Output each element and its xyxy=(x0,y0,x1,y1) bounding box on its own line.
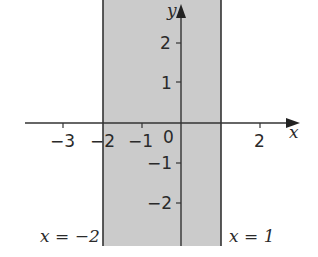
y-tick-label: −2 xyxy=(147,193,172,213)
y-tick-label: 2 xyxy=(160,33,171,53)
y-axis-label: y xyxy=(166,0,177,20)
x-tick-label: −1 xyxy=(128,131,153,151)
x-tick-label: 0 xyxy=(163,127,174,147)
y-tick-label: −1 xyxy=(147,153,172,173)
annotation-x-1: x = 1 xyxy=(229,226,274,246)
coordinate-plane: −3 −2 −1 0 2 2 1 −1 −2 x y x = −2 x = 1 xyxy=(0,0,318,257)
x-tick-label: −2 xyxy=(90,131,115,151)
annotation-x-minus-2: x = −2 xyxy=(40,226,100,246)
x-tick-label: −3 xyxy=(50,131,75,151)
x-axis-label: x xyxy=(289,122,299,142)
x-tick-label: 2 xyxy=(254,131,265,151)
graph-figure: −3 −2 −1 0 2 2 1 −1 −2 x y x = −2 x = 1 xyxy=(0,0,318,257)
y-tick-label: 1 xyxy=(161,73,172,93)
